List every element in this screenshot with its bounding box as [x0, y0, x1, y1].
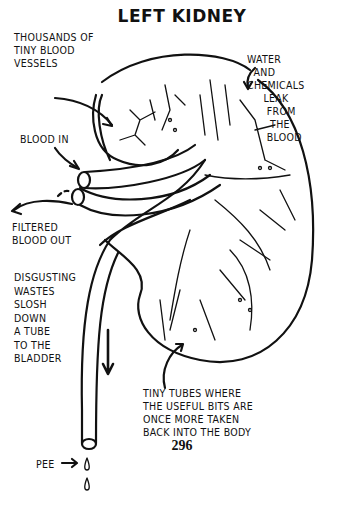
- label-filtered-blood-out: FILTERED BLOOD OUT: [12, 221, 71, 247]
- label-tiny-tubes: TINY TUBES WHERE THE USEFUL BITS ARE ONC…: [143, 387, 253, 439]
- label-water-chemicals: WATER AND CHEMICALS LEAK FROM THE BLOOD: [247, 53, 305, 144]
- page-number: 296: [0, 438, 364, 454]
- label-blood-vessels: THOUSANDS OF TINY BLOOD VESSELS: [14, 31, 94, 70]
- label-wastes: DISGUSTING WASTES SLOSH DOWN A TUBE TO T…: [14, 271, 76, 366]
- label-pee: PEE: [36, 458, 55, 471]
- blood-vessels: [80, 145, 220, 215]
- label-blood-in: BLOOD IN: [20, 133, 69, 146]
